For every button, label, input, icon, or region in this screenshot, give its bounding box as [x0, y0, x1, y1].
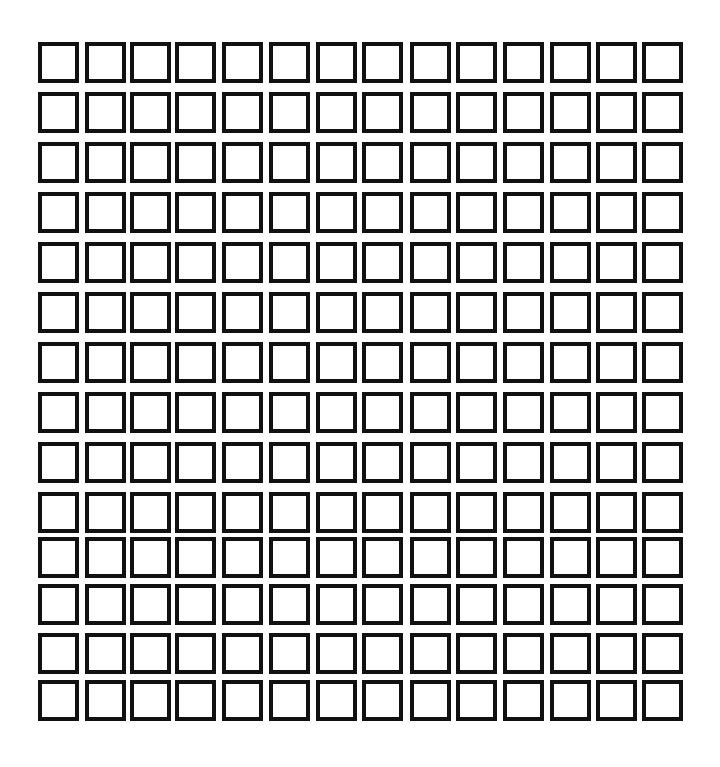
checkbox[interactable]	[175, 192, 216, 233]
checkbox[interactable]	[503, 242, 544, 283]
checkbox[interactable]	[130, 392, 171, 433]
checkbox[interactable]	[316, 492, 357, 533]
checkbox[interactable]	[316, 92, 357, 133]
checkbox[interactable]	[38, 442, 79, 483]
checkbox[interactable]	[550, 42, 591, 83]
checkbox[interactable]	[130, 442, 171, 483]
checkbox[interactable]	[85, 92, 126, 133]
checkbox[interactable]	[362, 442, 403, 483]
checkbox[interactable]	[222, 242, 263, 283]
checkbox[interactable]	[550, 584, 591, 625]
checkbox[interactable]	[503, 92, 544, 133]
checkbox[interactable]	[362, 92, 403, 133]
checkbox[interactable]	[596, 392, 637, 433]
checkbox[interactable]	[456, 392, 497, 433]
checkbox[interactable]	[316, 442, 357, 483]
checkbox[interactable]	[269, 142, 310, 183]
checkbox[interactable]	[362, 537, 403, 578]
checkbox[interactable]	[269, 537, 310, 578]
checkbox[interactable]	[38, 633, 79, 674]
checkbox[interactable]	[85, 292, 126, 333]
checkbox[interactable]	[410, 442, 451, 483]
checkbox[interactable]	[269, 92, 310, 133]
checkbox[interactable]	[38, 242, 79, 283]
checkbox[interactable]	[503, 192, 544, 233]
checkbox[interactable]	[362, 142, 403, 183]
checkbox[interactable]	[38, 537, 79, 578]
checkbox[interactable]	[130, 192, 171, 233]
checkbox[interactable]	[503, 442, 544, 483]
checkbox[interactable]	[550, 192, 591, 233]
checkbox[interactable]	[642, 442, 683, 483]
checkbox[interactable]	[550, 680, 591, 721]
checkbox[interactable]	[316, 192, 357, 233]
checkbox[interactable]	[596, 142, 637, 183]
checkbox[interactable]	[596, 584, 637, 625]
checkbox[interactable]	[410, 142, 451, 183]
checkbox[interactable]	[642, 242, 683, 283]
checkbox[interactable]	[503, 392, 544, 433]
checkbox[interactable]	[642, 142, 683, 183]
checkbox[interactable]	[222, 633, 263, 674]
checkbox[interactable]	[550, 142, 591, 183]
checkbox[interactable]	[130, 42, 171, 83]
checkbox[interactable]	[175, 584, 216, 625]
checkbox[interactable]	[85, 442, 126, 483]
checkbox[interactable]	[550, 342, 591, 383]
checkbox[interactable]	[38, 192, 79, 233]
checkbox[interactable]	[596, 442, 637, 483]
checkbox[interactable]	[175, 92, 216, 133]
checkbox[interactable]	[456, 92, 497, 133]
checkbox[interactable]	[410, 342, 451, 383]
checkbox[interactable]	[410, 42, 451, 83]
checkbox[interactable]	[362, 584, 403, 625]
checkbox[interactable]	[130, 537, 171, 578]
checkbox[interactable]	[503, 342, 544, 383]
checkbox[interactable]	[550, 92, 591, 133]
checkbox[interactable]	[175, 633, 216, 674]
checkbox[interactable]	[596, 680, 637, 721]
checkbox[interactable]	[85, 242, 126, 283]
checkbox[interactable]	[316, 392, 357, 433]
checkbox[interactable]	[362, 242, 403, 283]
checkbox[interactable]	[596, 242, 637, 283]
checkbox[interactable]	[222, 584, 263, 625]
checkbox[interactable]	[222, 537, 263, 578]
checkbox[interactable]	[130, 92, 171, 133]
checkbox[interactable]	[130, 680, 171, 721]
checkbox[interactable]	[222, 342, 263, 383]
checkbox[interactable]	[362, 633, 403, 674]
checkbox[interactable]	[38, 42, 79, 83]
checkbox[interactable]	[269, 242, 310, 283]
checkbox[interactable]	[175, 42, 216, 83]
checkbox[interactable]	[410, 633, 451, 674]
checkbox[interactable]	[222, 192, 263, 233]
checkbox[interactable]	[410, 680, 451, 721]
checkbox[interactable]	[175, 537, 216, 578]
checkbox[interactable]	[130, 142, 171, 183]
checkbox[interactable]	[85, 537, 126, 578]
checkbox[interactable]	[642, 292, 683, 333]
checkbox[interactable]	[222, 442, 263, 483]
checkbox[interactable]	[503, 537, 544, 578]
checkbox[interactable]	[38, 342, 79, 383]
checkbox[interactable]	[316, 584, 357, 625]
checkbox[interactable]	[269, 680, 310, 721]
checkbox[interactable]	[130, 342, 171, 383]
checkbox[interactable]	[175, 242, 216, 283]
checkbox[interactable]	[38, 680, 79, 721]
checkbox[interactable]	[38, 492, 79, 533]
checkbox[interactable]	[175, 142, 216, 183]
checkbox[interactable]	[85, 342, 126, 383]
checkbox[interactable]	[38, 392, 79, 433]
checkbox[interactable]	[596, 292, 637, 333]
checkbox[interactable]	[175, 292, 216, 333]
checkbox[interactable]	[456, 633, 497, 674]
checkbox[interactable]	[316, 342, 357, 383]
checkbox[interactable]	[642, 342, 683, 383]
checkbox[interactable]	[503, 633, 544, 674]
checkbox[interactable]	[503, 142, 544, 183]
checkbox[interactable]	[550, 537, 591, 578]
checkbox[interactable]	[222, 92, 263, 133]
checkbox[interactable]	[550, 442, 591, 483]
